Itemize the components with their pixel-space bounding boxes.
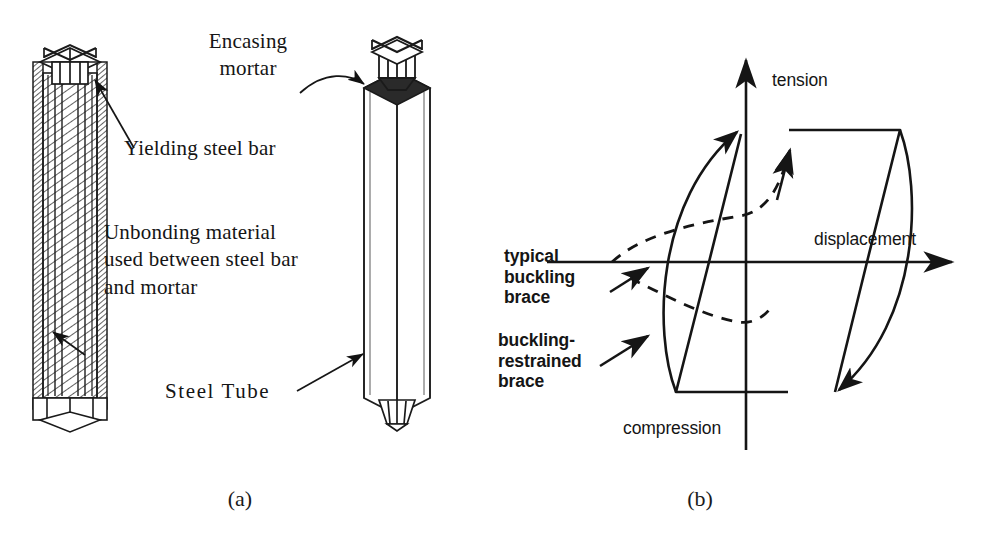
panel-b-leader-lines	[600, 268, 648, 366]
label-encasing-mortar: Encasing mortar	[186, 28, 310, 83]
figure-root: Encasing mortar Yielding steel bar Unbon…	[0, 0, 981, 537]
label-typical-buckling-brace: typical buckling brace	[504, 246, 575, 308]
caption-panel-a: (a)	[190, 486, 290, 512]
leader-steel-tube	[297, 354, 363, 391]
label-buckling-restrained-brace: buckling- restrained brace	[498, 330, 582, 392]
label-yielding-steel-bar: Yielding steel bar	[124, 135, 276, 162]
panel-b-hysteresis-diagram: tension displacement compression typical…	[490, 0, 981, 537]
panel-a-brace-assembly: Encasing mortar Yielding steel bar Unbon…	[0, 0, 490, 537]
caption-panel-b: (b)	[650, 486, 750, 512]
axis-label-tension: tension	[772, 69, 828, 92]
cutaway-mortar-fill	[43, 73, 97, 398]
cutaway-bottom-cap	[33, 398, 107, 432]
assembled-tube-body	[364, 71, 430, 415]
label-unbonding-material: Unbonding material used between steel ba…	[104, 219, 298, 301]
cutaway-column-group	[33, 45, 107, 432]
axis-label-displacement: displacement	[814, 228, 916, 251]
assembled-column-group	[364, 37, 430, 431]
leader-typical-buckling-brace	[610, 268, 648, 292]
label-steel-tube: Steel Tube	[165, 378, 270, 405]
assembled-bottom-cruciform-core	[379, 400, 415, 431]
axis-label-compression: compression	[623, 417, 721, 440]
leader-buckling-restrained-brace	[600, 336, 648, 366]
